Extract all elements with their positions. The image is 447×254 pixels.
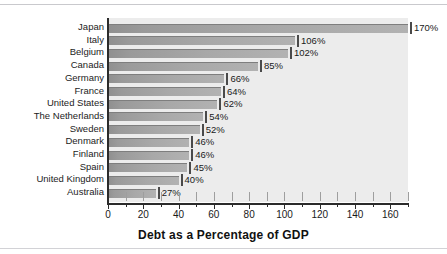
x-tick-interior xyxy=(232,192,233,201)
x-tick-interior xyxy=(390,192,391,201)
x-tick-interior xyxy=(302,192,303,201)
bar-end-marker xyxy=(219,98,221,110)
bar-rows: 170%106%102%85%66%64%62%54%52%46%46%45%4… xyxy=(108,18,408,202)
bar-row: 62% xyxy=(108,98,408,111)
bar-end-marker xyxy=(205,111,207,123)
bar-end-marker xyxy=(410,22,412,34)
bottom-divider-rule xyxy=(0,248,447,249)
bar-row: 170% xyxy=(108,22,408,35)
x-tick-label: 140 xyxy=(347,209,364,221)
x-tick-interior xyxy=(179,192,180,201)
bar-value-label: 85% xyxy=(264,60,283,72)
bar xyxy=(108,74,224,83)
bar xyxy=(108,138,189,147)
bar-row: 106% xyxy=(108,35,408,48)
bar-row: 45% xyxy=(108,162,408,175)
bar xyxy=(108,36,295,45)
bar-row: 40% xyxy=(108,174,408,187)
x-tick-minor xyxy=(196,203,197,207)
category-label: Finland xyxy=(0,148,104,161)
x-axis-title: Debt as a Percentage of GDP xyxy=(0,228,447,242)
chart-figure: 170%106%102%85%66%64%62%54%52%46%46%45%4… xyxy=(0,0,447,254)
bar-value-label: 54% xyxy=(209,111,228,123)
bar xyxy=(108,125,200,134)
x-tick-interior xyxy=(373,192,374,201)
category-label: Spain xyxy=(0,161,104,174)
x-tick-label: 60 xyxy=(208,209,219,221)
category-labels: JapanItalyBelgiumCanadaGermanyFranceUnit… xyxy=(0,18,104,202)
x-tick-label: 120 xyxy=(311,209,328,221)
x-tick-interior xyxy=(320,192,321,201)
bar-end-marker xyxy=(191,149,193,161)
x-tick-interior xyxy=(337,192,338,201)
bar xyxy=(108,151,189,160)
bar-row: 64% xyxy=(108,86,408,99)
bar-row: 46% xyxy=(108,136,408,149)
category-label: Italy xyxy=(0,34,104,47)
x-tick-minor xyxy=(408,203,409,207)
category-label: United Kingdom xyxy=(0,173,104,186)
bar-row: 27% xyxy=(108,187,408,200)
category-label: Belgium xyxy=(0,46,104,59)
bar-row: 52% xyxy=(108,124,408,137)
bar-value-label: 46% xyxy=(195,149,214,161)
bar xyxy=(108,163,187,172)
bar xyxy=(108,112,203,121)
bar-value-label: 64% xyxy=(227,86,246,98)
bar-row: 85% xyxy=(108,60,408,73)
x-tick-interior xyxy=(126,192,127,201)
bar-end-marker xyxy=(297,35,299,47)
x-tick-interior xyxy=(284,192,285,201)
category-label: United States xyxy=(0,97,104,110)
bar-value-label: 52% xyxy=(206,124,225,136)
x-tick-interior xyxy=(214,192,215,201)
bar-end-marker xyxy=(260,60,262,72)
bar-end-marker xyxy=(290,47,292,59)
bar-row: 66% xyxy=(108,73,408,86)
bar-end-marker xyxy=(191,136,193,148)
x-tick-interior xyxy=(249,192,250,201)
bar-value-label: 102% xyxy=(294,47,318,59)
category-label: The Netherlands xyxy=(0,110,104,123)
x-tick-minor xyxy=(232,203,233,207)
category-label: Germany xyxy=(0,72,104,85)
bar-end-marker xyxy=(223,86,225,98)
x-tick-minor xyxy=(161,203,162,207)
top-divider-rule xyxy=(0,4,447,5)
x-axis-line xyxy=(107,203,408,205)
x-tick-label: 40 xyxy=(173,209,184,221)
x-tick-interior xyxy=(161,192,162,201)
category-label: Japan xyxy=(0,21,104,34)
bar-value-label: 62% xyxy=(223,98,242,110)
bar-end-marker xyxy=(202,124,204,136)
x-tick-interior xyxy=(196,192,197,201)
bar-row: 54% xyxy=(108,111,408,124)
plot-area: 170%106%102%85%66%64%62%54%52%46%46%45%4… xyxy=(108,18,408,202)
bar-end-marker xyxy=(226,73,228,85)
bar-value-label: 170% xyxy=(414,22,438,34)
bar-end-marker xyxy=(181,174,183,186)
bar xyxy=(108,189,156,198)
bar-value-label: 106% xyxy=(301,35,325,47)
bar-value-label: 45% xyxy=(193,162,212,174)
bar xyxy=(108,176,179,185)
bar-value-label: 46% xyxy=(195,136,214,148)
x-tick-label: 160 xyxy=(382,209,399,221)
bar xyxy=(108,49,288,58)
x-tick-label: 0 xyxy=(105,209,111,221)
x-tick-label: 100 xyxy=(276,209,293,221)
x-tick-minor xyxy=(337,203,338,207)
bar xyxy=(108,100,217,109)
x-tick-interior xyxy=(143,192,144,201)
bar-end-marker xyxy=(158,187,160,199)
x-tick-label: 80 xyxy=(244,209,255,221)
category-label: Australia xyxy=(0,186,104,199)
x-tick-minor xyxy=(267,203,268,207)
bar-end-marker xyxy=(189,162,191,174)
x-tick-label: 20 xyxy=(138,209,149,221)
x-tick-minor xyxy=(302,203,303,207)
x-tick-minor xyxy=(126,203,127,207)
category-label: Canada xyxy=(0,59,104,72)
bar xyxy=(108,24,408,33)
bar xyxy=(108,87,221,96)
